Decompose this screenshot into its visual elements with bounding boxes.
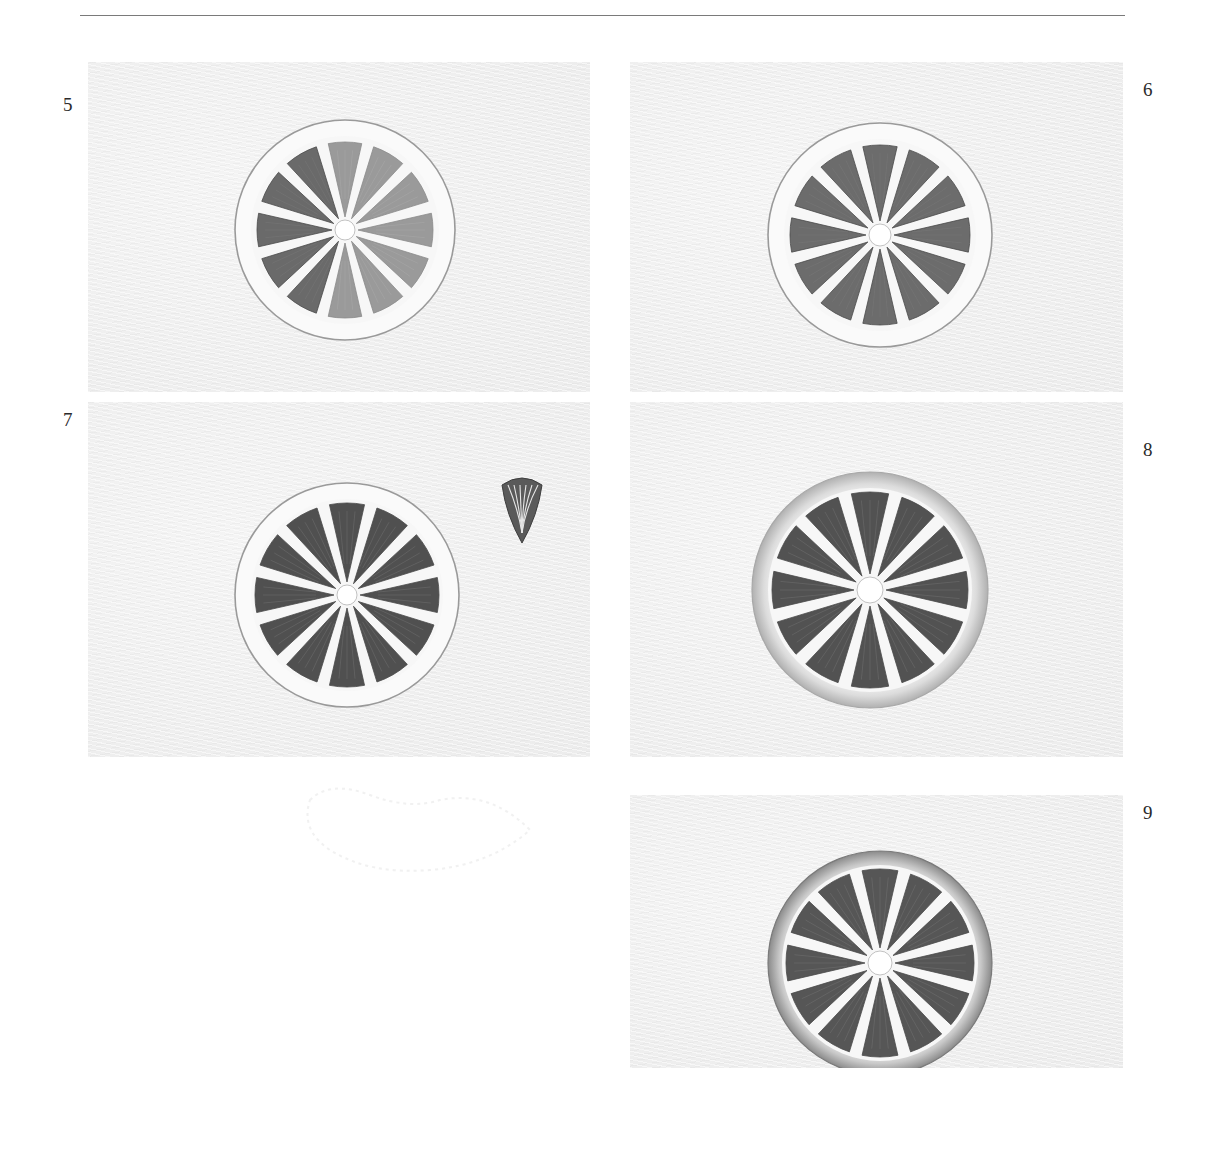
step-number-label: 7 <box>63 410 73 429</box>
top-divider-rule <box>80 15 1125 16</box>
step-7-panel <box>88 402 590 757</box>
step-8-panel <box>630 402 1123 757</box>
step-number-label: 9 <box>1143 803 1153 822</box>
citrus-slice-drawing <box>630 795 1123 1068</box>
step-9-panel <box>630 795 1123 1068</box>
segment-detail-icon <box>502 478 542 543</box>
citrus-slice-drawing <box>630 402 1123 757</box>
citrus-slice-drawing <box>88 402 590 757</box>
step-number-label: 5 <box>63 95 73 114</box>
step-5-panel <box>88 62 590 392</box>
step-6-panel <box>630 62 1123 392</box>
citrus-slice-drawing <box>88 62 590 392</box>
faint-background-sketch <box>290 770 540 880</box>
step-number-label: 8 <box>1143 440 1153 459</box>
step-number-label: 6 <box>1143 80 1153 99</box>
citrus-slice-drawing <box>630 62 1123 392</box>
